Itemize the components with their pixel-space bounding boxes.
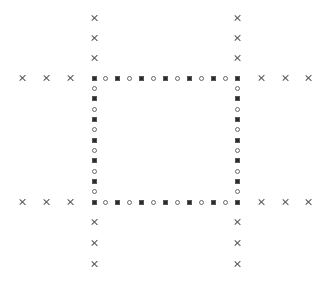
- left-edge-filled-square-icon: [92, 117, 97, 122]
- right-edge-filled-square-icon: [235, 96, 240, 101]
- right-edge-filled-square-icon: [235, 138, 240, 143]
- right-edge-hollow-circle-icon: [235, 189, 240, 194]
- cross-icon: [234, 240, 241, 247]
- bottom-edge-hollow-circle-icon: [175, 200, 180, 205]
- bottom-edge-hollow-circle-icon: [151, 200, 156, 205]
- cross-icon: [19, 75, 26, 82]
- left-edge-filled-square-icon: [92, 179, 97, 184]
- right-edge-hollow-circle-icon: [235, 148, 240, 153]
- cross-icon: [91, 15, 98, 22]
- left-edge-hollow-circle-icon: [92, 127, 97, 132]
- top-edge-hollow-circle-icon: [175, 76, 180, 81]
- right-edge-hollow-circle-icon: [235, 107, 240, 112]
- top-edge-filled-square-icon: [115, 76, 120, 81]
- left-edge-hollow-circle-icon: [92, 107, 97, 112]
- right-edge-filled-square-icon: [235, 179, 240, 184]
- top-edge-hollow-circle-icon: [127, 76, 132, 81]
- bottom-edge-filled-square-icon: [139, 200, 144, 205]
- top-edge-hollow-circle-icon: [199, 76, 204, 81]
- top-edge-hollow-circle-icon: [223, 76, 228, 81]
- cross-icon: [305, 199, 312, 206]
- right-edge-hollow-circle-icon: [235, 127, 240, 132]
- cross-icon: [91, 240, 98, 247]
- bottom-edge-filled-square-icon: [115, 200, 120, 205]
- right-edge-filled-square-icon: [235, 117, 240, 122]
- bottom-edge-hollow-circle-icon: [199, 200, 204, 205]
- cross-icon: [91, 261, 98, 268]
- bottom-edge-filled-square-icon: [187, 200, 192, 205]
- cross-icon: [234, 261, 241, 268]
- bottom-edge-filled-square-icon: [92, 200, 97, 205]
- cross-icon: [19, 199, 26, 206]
- marker-diagram: [0, 0, 325, 285]
- left-edge-filled-square-icon: [92, 158, 97, 163]
- cross-icon: [67, 75, 74, 82]
- cross-icon: [91, 35, 98, 42]
- cross-icon: [43, 199, 50, 206]
- cross-icon: [305, 75, 312, 82]
- cross-icon: [234, 15, 241, 22]
- cross-icon: [67, 199, 74, 206]
- cross-icon: [258, 75, 265, 82]
- cross-icon: [43, 75, 50, 82]
- cross-icon: [234, 35, 241, 42]
- top-edge-hollow-circle-icon: [151, 76, 156, 81]
- right-edge-filled-square-icon: [235, 158, 240, 163]
- top-edge-filled-square-icon: [187, 76, 192, 81]
- top-edge-filled-square-icon: [139, 76, 144, 81]
- left-edge-hollow-circle-icon: [92, 86, 97, 91]
- left-edge-filled-square-icon: [92, 96, 97, 101]
- bottom-edge-hollow-circle-icon: [223, 200, 228, 205]
- left-edge-hollow-circle-icon: [92, 148, 97, 153]
- right-edge-hollow-circle-icon: [235, 86, 240, 91]
- left-edge-hollow-circle-icon: [92, 169, 97, 174]
- bottom-edge-filled-square-icon: [211, 200, 216, 205]
- cross-icon: [282, 199, 289, 206]
- right-edge-hollow-circle-icon: [235, 169, 240, 174]
- cross-icon: [234, 219, 241, 226]
- bottom-edge-hollow-circle-icon: [127, 200, 132, 205]
- cross-icon: [282, 75, 289, 82]
- cross-icon: [91, 219, 98, 226]
- cross-icon: [91, 55, 98, 62]
- cross-icon: [258, 199, 265, 206]
- bottom-edge-filled-square-icon: [163, 200, 168, 205]
- cross-icon: [234, 55, 241, 62]
- left-edge-hollow-circle-icon: [92, 189, 97, 194]
- left-edge-filled-square-icon: [92, 138, 97, 143]
- top-edge-filled-square-icon: [211, 76, 216, 81]
- top-edge-filled-square-icon: [92, 76, 97, 81]
- top-edge-filled-square-icon: [163, 76, 168, 81]
- top-edge-filled-square-icon: [235, 76, 240, 81]
- bottom-edge-filled-square-icon: [235, 200, 240, 205]
- top-edge-hollow-circle-icon: [103, 76, 108, 81]
- bottom-edge-hollow-circle-icon: [103, 200, 108, 205]
